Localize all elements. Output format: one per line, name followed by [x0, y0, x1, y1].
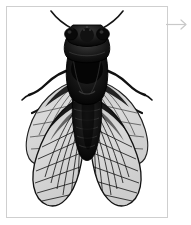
ocellus-median: [86, 26, 88, 28]
frons: [80, 28, 94, 42]
compound-eye-left-highlight: [68, 30, 72, 33]
compound-eye-right-highlight: [100, 30, 104, 33]
ocellus-left: [83, 29, 85, 31]
cicada-illustration: [7, 7, 167, 217]
specimen-image-panel[interactable]: [6, 6, 168, 218]
compound-eye-right: [97, 28, 110, 40]
screenshot-root: [0, 0, 191, 225]
specimen-image-canvas: [7, 7, 167, 217]
next-arrow-icon[interactable]: [166, 17, 191, 32]
compound-eye-left: [65, 28, 78, 40]
ocellus-right: [89, 29, 91, 31]
arrow-right-icon: [166, 17, 191, 32]
